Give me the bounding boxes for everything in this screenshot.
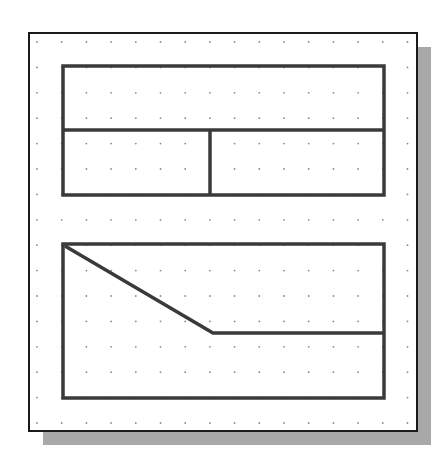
grid-dot — [308, 143, 310, 145]
grid-dot — [36, 143, 38, 145]
grid-dot — [184, 168, 186, 170]
grid-dot — [135, 321, 137, 323]
grid-dot — [308, 168, 310, 170]
grid-dot — [86, 422, 88, 424]
grid-dot — [160, 168, 162, 170]
grid-dot — [234, 295, 236, 297]
grid-dot — [86, 346, 88, 348]
grid-dot — [184, 143, 186, 145]
grid-dot — [61, 41, 63, 43]
grid-dot — [86, 219, 88, 221]
grid-dot — [36, 371, 38, 373]
grid-dot — [283, 422, 285, 424]
grid-dot — [357, 117, 359, 119]
grid-dot — [184, 422, 186, 424]
grid-dot — [160, 371, 162, 373]
grid-dot — [36, 422, 38, 424]
grid-dot — [86, 117, 88, 119]
grid-dot — [36, 92, 38, 94]
grid-dot — [160, 41, 162, 43]
grid-dot — [135, 143, 137, 145]
grid-dot — [135, 270, 137, 272]
grid-dot — [357, 422, 359, 424]
grid-dot — [333, 143, 335, 145]
grid-dot — [333, 270, 335, 272]
grid-dot — [209, 117, 211, 119]
grid-dot — [234, 41, 236, 43]
grid-dot — [283, 168, 285, 170]
grid-dot — [110, 92, 112, 94]
grid-dot — [86, 143, 88, 145]
grid-dot — [234, 117, 236, 119]
grid-dot — [234, 270, 236, 272]
grid-dot — [258, 92, 260, 94]
grid-dot — [36, 295, 38, 297]
grid-dot — [209, 219, 211, 221]
grid-dot — [407, 397, 409, 399]
grid-dot — [258, 117, 260, 119]
grid-dot — [184, 117, 186, 119]
grid-dot — [357, 295, 359, 297]
grid-dot — [234, 371, 236, 373]
grid-dot — [333, 117, 335, 119]
grid-dot — [283, 143, 285, 145]
grid-dot — [333, 422, 335, 424]
grid-dot — [209, 371, 211, 373]
grid-dot — [36, 117, 38, 119]
grid-dot — [357, 270, 359, 272]
grid-dot — [407, 244, 409, 246]
grid-dot — [36, 219, 38, 221]
grid-dot — [234, 143, 236, 145]
grid-dot — [160, 270, 162, 272]
grid-dot — [407, 92, 409, 94]
grid-dot — [86, 92, 88, 94]
grid-dot — [407, 41, 409, 43]
grid-dot — [160, 346, 162, 348]
grid-dot — [86, 41, 88, 43]
grid-dot — [110, 422, 112, 424]
grid-dot — [333, 168, 335, 170]
grid-dot — [333, 41, 335, 43]
grid-dot — [209, 422, 211, 424]
grid-dot — [333, 295, 335, 297]
grid-dot — [407, 371, 409, 373]
grid-dot — [357, 219, 359, 221]
grid-dot — [308, 41, 310, 43]
grid-dot — [160, 321, 162, 323]
grid-dot — [135, 422, 137, 424]
grid-dot — [110, 168, 112, 170]
grid-dot — [36, 67, 38, 69]
grid-dot — [357, 143, 359, 145]
grid-dot — [283, 270, 285, 272]
grid-dot — [209, 92, 211, 94]
grid-dot — [357, 41, 359, 43]
grid-dot — [308, 346, 310, 348]
grid-dot — [86, 321, 88, 323]
grid-dot — [382, 422, 384, 424]
grid-dot — [308, 117, 310, 119]
grid-dot — [407, 295, 409, 297]
grid-dot — [36, 321, 38, 323]
grid-dot — [283, 92, 285, 94]
grid-dot — [110, 117, 112, 119]
grid-dot — [184, 219, 186, 221]
grid-dot — [209, 295, 211, 297]
grid-dot — [209, 321, 211, 323]
grid-dot — [160, 295, 162, 297]
grid-dot — [135, 346, 137, 348]
grid-dot — [407, 117, 409, 119]
grid-dot — [283, 371, 285, 373]
grid-dot — [110, 143, 112, 145]
grid-dot — [333, 371, 335, 373]
grid-dot — [160, 422, 162, 424]
grid-dot — [283, 321, 285, 323]
grid-dot — [184, 321, 186, 323]
grid-dot — [135, 168, 137, 170]
grid-dot — [258, 371, 260, 373]
grid-dot — [333, 219, 335, 221]
grid-dot — [407, 67, 409, 69]
grid-dot — [184, 346, 186, 348]
grid-dot — [36, 346, 38, 348]
grid-dot — [283, 219, 285, 221]
grid-dot — [86, 168, 88, 170]
